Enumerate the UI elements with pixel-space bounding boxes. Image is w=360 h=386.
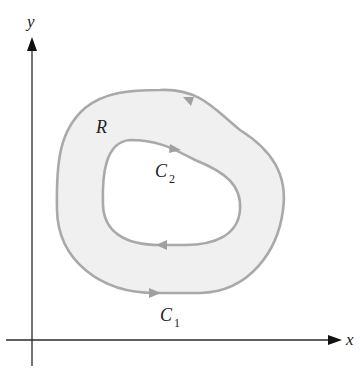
x-axis-arrowhead-icon [328,335,342,345]
green-theorem-annulus-diagram: y x R C 2 C 1 [0,0,360,386]
region-r-label: R [95,117,107,137]
y-axis-arrowhead-icon [27,37,37,51]
svg-text:C: C [155,161,168,181]
x-axis-label: x [345,330,354,349]
svg-text:C: C [160,305,173,325]
y-axis-label: y [25,12,35,31]
curve-c2-label: C 2 [155,161,175,186]
svg-text:1: 1 [174,316,180,330]
curve-c1-label: C 1 [160,305,180,330]
region-r-fill [57,90,284,293]
svg-text:2: 2 [169,172,175,186]
